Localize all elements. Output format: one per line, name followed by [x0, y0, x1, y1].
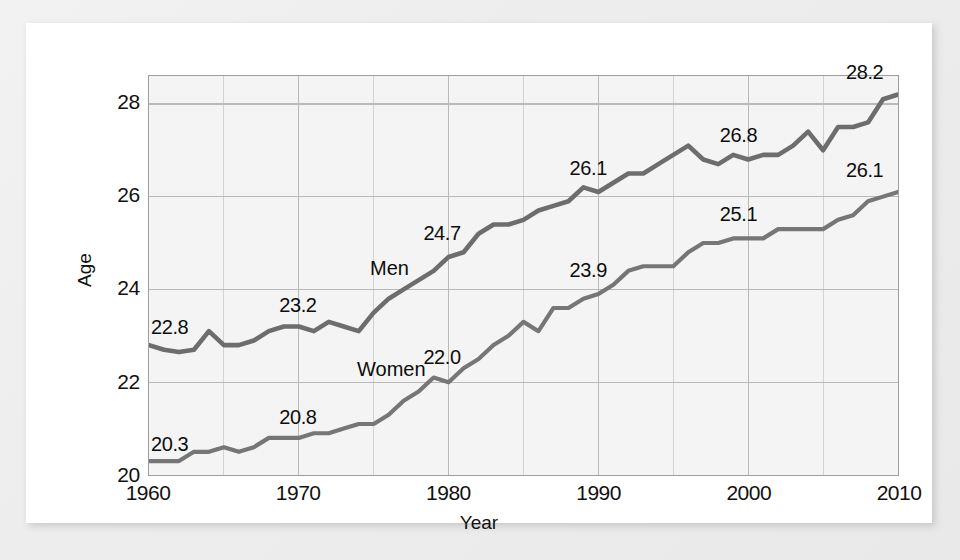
x-tick-label-1970: 1970 — [253, 481, 343, 505]
series-label-men: Men — [370, 257, 409, 280]
plot-area: 22.823.224.726.126.828.220.320.822.023.9… — [148, 75, 899, 476]
x-axis-title-text: Year — [460, 512, 498, 534]
data-label-men-1970: 23.2 — [279, 294, 316, 317]
data-label-men-1960: 22.8 — [151, 316, 188, 339]
x-tick-label-2010: 2010 — [854, 481, 944, 505]
data-label-women-1990: 23.9 — [570, 259, 607, 282]
y-tick-label-24: 24 — [117, 276, 140, 300]
data-labels-layer: 22.823.224.726.126.828.220.320.822.023.9… — [149, 76, 898, 475]
data-label-men-1990: 26.1 — [570, 157, 607, 180]
y-tick-label-26: 26 — [117, 183, 140, 207]
x-tick-label-1980: 1980 — [403, 481, 493, 505]
y-axis-title: Age — [74, 210, 96, 330]
x-tick-label-1960: 1960 — [103, 481, 193, 505]
data-label-women-1960: 20.3 — [151, 433, 188, 456]
data-label-men-1980: 24.7 — [423, 222, 460, 245]
x-tick-label-1990: 1990 — [554, 481, 644, 505]
y-tick-label-22: 22 — [117, 370, 140, 394]
x-tick-label-2000: 2000 — [704, 481, 794, 505]
data-label-women-2000: 25.1 — [720, 203, 757, 226]
data-label-men-2010: 28.2 — [846, 61, 883, 84]
data-label-men-2000: 26.8 — [720, 124, 757, 147]
chart-card: 22.823.224.726.126.828.220.320.822.023.9… — [26, 23, 932, 523]
y-tick-label-28: 28 — [117, 90, 140, 114]
figure-root: 22.823.224.726.126.828.220.320.822.023.9… — [0, 0, 960, 560]
data-label-women-1970: 20.8 — [279, 406, 316, 429]
series-label-women: Women — [357, 358, 426, 381]
data-label-women-2010: 26.1 — [846, 159, 883, 182]
data-label-women-1980: 22.0 — [423, 346, 460, 369]
x-axis-title: Year — [26, 512, 932, 534]
